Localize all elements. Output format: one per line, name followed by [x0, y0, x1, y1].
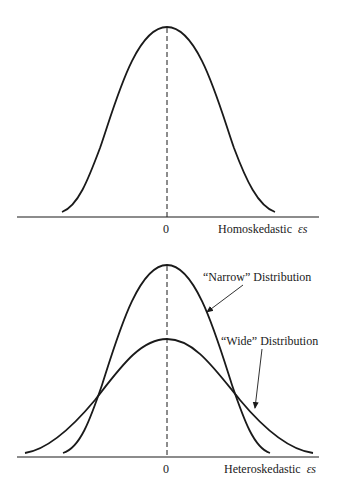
bottom-axis-label: Heteroskedastic εs — [224, 462, 316, 476]
wide-distribution-label: “Wide” Distribution — [221, 334, 318, 348]
figure: 0 Homoskedastic εs “Narrow” Distribution… — [0, 0, 339, 495]
top-homoskedastic-curve — [62, 27, 275, 212]
wide-distribution-curve — [25, 339, 313, 453]
top-panel: 0 Homoskedastic εs — [17, 27, 319, 236]
bottom-origin-label: 0 — [163, 462, 169, 476]
wide-arrow — [255, 349, 262, 408]
narrow-distribution-label: “Narrow” Distribution — [203, 270, 311, 284]
top-origin-label: 0 — [163, 222, 169, 236]
top-axis-label: Homoskedastic εs — [218, 222, 308, 236]
narrow-arrow — [207, 285, 243, 312]
bottom-panel: “Narrow” Distribution “Wide” Distributio… — [17, 265, 319, 476]
